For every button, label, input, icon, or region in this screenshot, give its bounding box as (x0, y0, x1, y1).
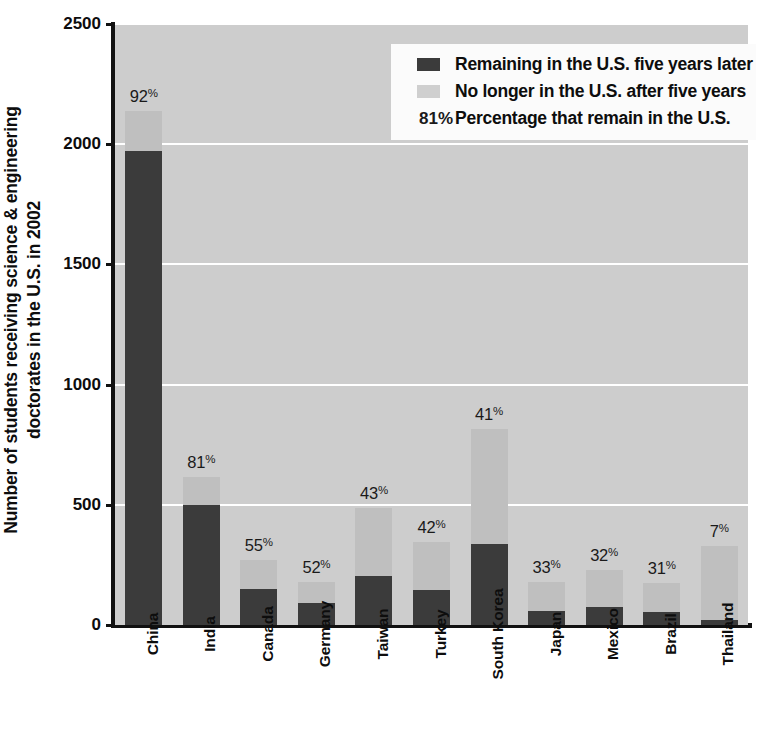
x-tick-label: Mexico (595, 634, 613, 726)
x-tick-label: Japan (538, 634, 556, 726)
y-tick-label: 2500 (43, 14, 101, 34)
bar-group[interactable] (298, 24, 335, 625)
bar-percent-label: 92% (110, 87, 177, 106)
y-tick-mark (106, 263, 115, 266)
y-tick-label: 1000 (43, 375, 101, 395)
bar-percent-label: 52% (283, 558, 350, 577)
y-axis-title-line-2: doctorates in the U.S. in 2002 (23, 106, 46, 534)
y-tick-label: 0 (43, 615, 101, 635)
y-axis-title: Number of students receiving science & e… (0, 0, 46, 640)
bar-group[interactable] (240, 24, 277, 625)
bar-segment-no-longer-in-us[interactable] (643, 583, 680, 612)
bar-percent-label: 7% (686, 522, 753, 541)
bar-segment-remaining-in-us[interactable] (125, 151, 162, 625)
chart-container: Number of students receiving science & e… (0, 0, 774, 729)
x-tick-label: Brazil (653, 634, 671, 726)
bar-percent-label: 31% (628, 559, 695, 578)
x-tick-label: Taiwan (365, 634, 383, 726)
y-axis-title-line-1: Number of students receiving science & e… (0, 106, 23, 534)
bar-percent-label: 81% (168, 453, 235, 472)
x-tick-label: Germany (307, 634, 325, 726)
x-tick-label: South Korea (480, 634, 498, 726)
bar-group[interactable] (125, 24, 162, 625)
bar-segment-no-longer-in-us[interactable] (413, 542, 450, 590)
x-tick-label: Canada (250, 634, 268, 726)
bar-segment-remaining-in-us[interactable] (183, 505, 220, 625)
x-tick-label: Turkey (423, 634, 441, 726)
x-tick-label: Thailand (710, 634, 728, 726)
bar-group[interactable] (183, 24, 220, 625)
legend-swatch-no-longer-icon (417, 85, 440, 98)
bar-segment-no-longer-in-us[interactable] (125, 111, 162, 152)
bar-segment-no-longer-in-us[interactable] (471, 429, 508, 544)
bar-segment-no-longer-in-us[interactable] (240, 560, 277, 589)
legend-label: Percentage that remain in the U.S. (455, 108, 730, 129)
legend-key (401, 85, 455, 98)
y-tick-mark (106, 624, 115, 627)
y-tick-label: 1500 (43, 254, 101, 274)
x-tick-label: India (192, 634, 210, 726)
legend-item[interactable]: No longer in the U.S. after five years (401, 78, 746, 105)
bar-segment-no-longer-in-us[interactable] (183, 477, 220, 505)
x-tick-label: China (135, 634, 153, 726)
legend-key: 81% (401, 109, 455, 129)
legend-item[interactable]: Remaining in the U.S. five years later (401, 51, 746, 78)
bar-segment-no-longer-in-us[interactable] (528, 582, 565, 611)
y-tick-mark (106, 23, 115, 26)
legend-label: No longer in the U.S. after five years (455, 81, 746, 102)
legend-key (401, 58, 455, 71)
legend-swatch-remaining-icon (417, 58, 440, 71)
y-tick-mark (106, 384, 115, 387)
legend-percent-key: 81% (401, 109, 455, 129)
y-tick-label: 500 (43, 495, 101, 515)
y-tick-label: 2000 (43, 134, 101, 154)
bar-segment-no-longer-in-us[interactable] (355, 508, 392, 575)
bar-percent-label: 41% (456, 405, 523, 424)
bar-percent-label: 43% (340, 484, 407, 503)
bar-group[interactable] (355, 24, 392, 625)
y-tick-mark (106, 504, 115, 507)
bar-segment-no-longer-in-us[interactable] (586, 570, 623, 607)
y-tick-mark (106, 143, 115, 146)
chart-legend: Remaining in the U.S. five years laterNo… (391, 44, 756, 140)
bar-percent-label: 42% (398, 518, 465, 537)
legend-item[interactable]: 81%Percentage that remain in the U.S. (401, 105, 746, 132)
legend-label: Remaining in the U.S. five years later (455, 54, 753, 75)
bar-percent-label: 55% (225, 536, 292, 555)
